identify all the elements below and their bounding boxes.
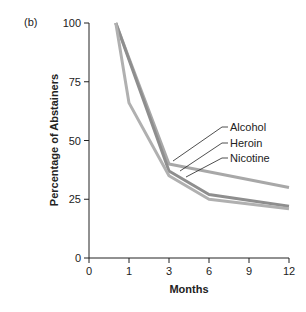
series-label: Nicotine — [230, 152, 270, 164]
x-tick-label: 9 — [246, 265, 252, 277]
y-tick-label: 0 — [75, 252, 81, 264]
line-chart: 02550751000136912AlcoholHeroinNicotine — [0, 0, 306, 312]
x-tick-label: 6 — [206, 265, 212, 277]
y-tick-label: 75 — [69, 76, 81, 88]
series-label: Alcohol — [230, 121, 266, 133]
x-tick-label: 3 — [166, 265, 172, 277]
x-axis-label: Months — [169, 283, 208, 295]
x-tick-label: 1 — [126, 265, 132, 277]
y-tick-label: 50 — [69, 135, 81, 147]
series-label: Heroin — [230, 137, 262, 149]
leader-line — [173, 127, 228, 161]
series-line-nicotine — [116, 23, 289, 209]
y-tick-label: 25 — [69, 193, 81, 205]
x-tick-label: 0 — [86, 265, 92, 277]
y-tick-label: 100 — [63, 17, 81, 29]
series-line-heroin — [116, 23, 289, 206]
y-axis-label: Percentage of Abstainers — [48, 74, 60, 206]
x-tick-label: 12 — [283, 265, 295, 277]
panel-label: (b) — [24, 16, 37, 28]
